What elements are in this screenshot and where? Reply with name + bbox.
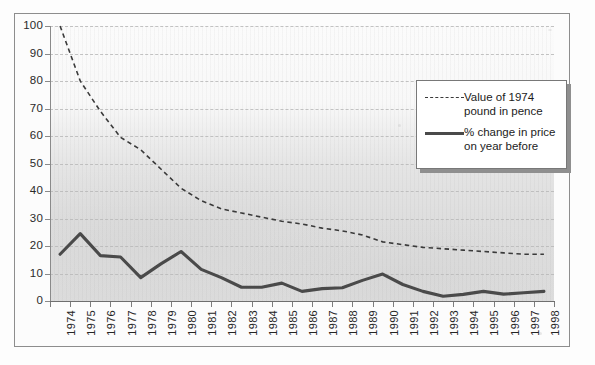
x-axis-tick-label: 1993	[448, 310, 460, 336]
y-axis-tick-label: 90	[30, 47, 43, 59]
x-axis-tick	[231, 302, 232, 307]
x-axis-tick-label: 1984	[267, 310, 279, 336]
legend-entry-label: % change in price on year before	[464, 125, 555, 153]
x-axis-tick-label: 1987	[327, 310, 339, 336]
x-axis-tick	[70, 302, 71, 307]
x-axis-tick-label: 1982	[226, 310, 238, 336]
x-axis-tick	[373, 302, 374, 307]
x-axis-tick-label: 1991	[408, 310, 420, 336]
x-axis-tick-label: 1992	[428, 310, 440, 336]
x-axis-tick-label: 1978	[146, 310, 158, 336]
y-axis-tick-label: 30	[30, 212, 43, 224]
y-axis-tick-label: 60	[30, 129, 43, 141]
x-axis-tick-label: 1986	[307, 310, 319, 336]
x-axis-tick	[534, 302, 535, 307]
y-axis-tick-label: 0	[36, 294, 43, 306]
chart-frame: 0102030405060708090100 19741975197619771…	[14, 13, 570, 347]
scan-speck	[398, 124, 401, 127]
x-axis-tick	[151, 302, 152, 307]
x-axis-line	[50, 301, 555, 302]
x-axis-tick	[494, 302, 495, 307]
x-axis-tick	[312, 302, 313, 307]
x-axis-tick-label: 1995	[488, 310, 500, 336]
y-axis-tick-label: 20	[30, 239, 43, 251]
x-axis-tick	[211, 302, 212, 307]
x-axis-tick-label: 1985	[287, 310, 299, 336]
screenshot-canvas: 0102030405060708090100 19741975197619771…	[0, 0, 595, 365]
x-axis-tick	[453, 302, 454, 307]
x-axis-tick-label: 1980	[186, 310, 198, 336]
x-axis-tick-label: 1989	[367, 310, 379, 336]
x-axis-tick	[433, 302, 434, 307]
x-axis-tick	[393, 302, 394, 307]
x-axis-tick-label: 1974	[65, 310, 77, 336]
y-axis-tick-label: 70	[30, 102, 43, 114]
series-line-percent-change-in-price	[60, 234, 544, 297]
y-axis-tick-label: 10	[30, 267, 43, 279]
x-axis-tick	[272, 302, 273, 307]
y-axis-tick-label: 100	[23, 19, 43, 31]
x-axis-tick	[554, 302, 555, 307]
y-axis-labels: 0102030405060708090100	[15, 14, 43, 314]
x-axis-tick	[332, 302, 333, 307]
x-axis-tick	[292, 302, 293, 307]
x-axis-tick	[50, 302, 51, 307]
scan-speck	[548, 29, 552, 31]
x-axis-tick-label: 1996	[509, 310, 521, 336]
x-axis-tick	[171, 302, 172, 307]
y-axis-tick-label: 80	[30, 74, 43, 86]
x-axis-tick	[352, 302, 353, 307]
legend-swatch-dashed-line-icon	[424, 90, 464, 106]
y-axis-tick-label: 40	[30, 184, 43, 196]
legend-swatch-solid-line-icon	[424, 125, 464, 141]
x-axis-tick	[191, 302, 192, 307]
x-axis-tick-label: 1979	[166, 310, 178, 336]
x-axis-tick-label: 1990	[388, 310, 400, 336]
x-axis-tick-label: 1976	[105, 310, 117, 336]
x-axis-tick-label: 1983	[247, 310, 259, 336]
x-axis-tick	[131, 302, 132, 307]
chart-legend: Value of 1974 pound in pence % change in…	[416, 80, 567, 169]
x-axis-tick-label: 1975	[85, 310, 97, 336]
x-axis-tick	[413, 302, 414, 307]
x-axis-tick-label: 1994	[468, 310, 480, 336]
x-axis-tick	[514, 302, 515, 307]
legend-entry-label: Value of 1974 pound in pence	[464, 90, 543, 118]
scan-speck	[539, 332, 542, 335]
x-axis-tick	[110, 302, 111, 307]
x-axis-tick-label: 1998	[549, 310, 561, 336]
x-axis-tick	[90, 302, 91, 307]
x-axis-tick-label: 1988	[347, 310, 359, 336]
y-axis-tick-label: 50	[30, 157, 43, 169]
x-axis-tick	[473, 302, 474, 307]
legend-entry: Value of 1974 pound in pence	[424, 90, 560, 118]
x-axis-tick-label: 1981	[206, 310, 218, 336]
legend-entry: % change in price on year before	[424, 125, 560, 153]
x-axis-tick-label: 1977	[126, 310, 138, 336]
x-axis-tick	[252, 302, 253, 307]
